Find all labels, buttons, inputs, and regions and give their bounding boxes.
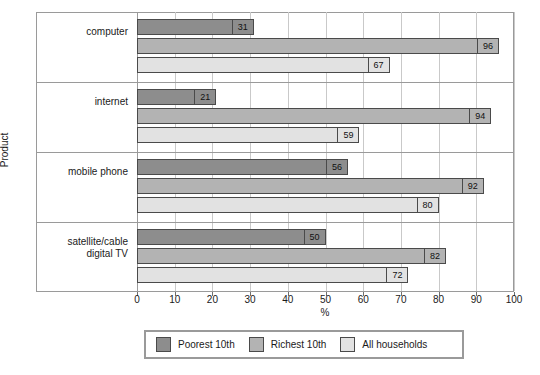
x-tick-label: 80	[433, 294, 444, 305]
bar-value-label: 31	[232, 20, 253, 34]
bar-value-label: 80	[417, 198, 438, 212]
x-tick-label: 90	[471, 294, 482, 305]
plot-area: 319667219459569280508272	[137, 12, 514, 292]
bar: 72	[137, 267, 408, 283]
legend-item[interactable]: Richest 10th	[249, 337, 327, 352]
bar-value-label: 67	[368, 58, 389, 72]
bar: 59	[137, 127, 359, 143]
bar-chart: computerinternetmobile phonesatellite/ca…	[0, 0, 540, 375]
x-tick-label: 70	[395, 294, 406, 305]
bar-value-label: 96	[477, 39, 498, 53]
bar: 80	[137, 197, 439, 213]
bar-value-label: 92	[462, 179, 483, 193]
x-tick-label: 30	[245, 294, 256, 305]
bar-value-label: 94	[469, 109, 490, 123]
category-label-0: computer	[0, 26, 128, 38]
chart-legend: Poorest 10thRichest 10thAll households	[144, 330, 464, 359]
legend-swatch	[249, 337, 264, 352]
x-tick-label: 60	[358, 294, 369, 305]
legend-label: Richest 10th	[271, 339, 327, 350]
bar-value-label: 21	[194, 90, 215, 104]
bar: 50	[137, 229, 326, 245]
bar: 31	[137, 19, 254, 35]
x-tick-label: 10	[169, 294, 180, 305]
legend-label: All households	[362, 339, 427, 350]
bar-value-label: 82	[424, 249, 445, 263]
legend-swatch	[340, 337, 355, 352]
bar-value-label: 50	[304, 230, 325, 244]
bar: 92	[137, 178, 484, 194]
category-label-line: satellite/cable	[0, 236, 128, 248]
x-tick-label: 100	[506, 294, 523, 305]
bar-value-label: 72	[386, 268, 407, 282]
legend-item[interactable]: All households	[340, 337, 427, 352]
legend-label: Poorest 10th	[178, 339, 235, 350]
category-label-1: internet	[0, 96, 128, 108]
bar: 96	[137, 38, 499, 54]
bar: 82	[137, 248, 446, 264]
x-tick-label: 50	[320, 294, 331, 305]
bar-value-label: 59	[337, 128, 358, 142]
gridline-100	[514, 12, 515, 291]
x-axis-title: %	[321, 307, 330, 318]
category-label-line: digital TV	[0, 248, 128, 260]
legend-swatch	[156, 337, 171, 352]
legend-item[interactable]: Poorest 10th	[156, 337, 235, 352]
bar: 67	[137, 57, 390, 73]
x-tick-label: 20	[207, 294, 218, 305]
bar-value-label: 56	[326, 160, 347, 174]
x-tick-label: 40	[282, 294, 293, 305]
category-label-3: satellite/cabledigital TV	[0, 236, 128, 260]
category-label-2: mobile phone	[0, 166, 128, 178]
bar: 56	[137, 159, 348, 175]
bar: 21	[137, 89, 216, 105]
bar: 94	[137, 108, 491, 124]
x-tick-label: 0	[134, 294, 140, 305]
y-axis-title: Product	[0, 133, 10, 167]
